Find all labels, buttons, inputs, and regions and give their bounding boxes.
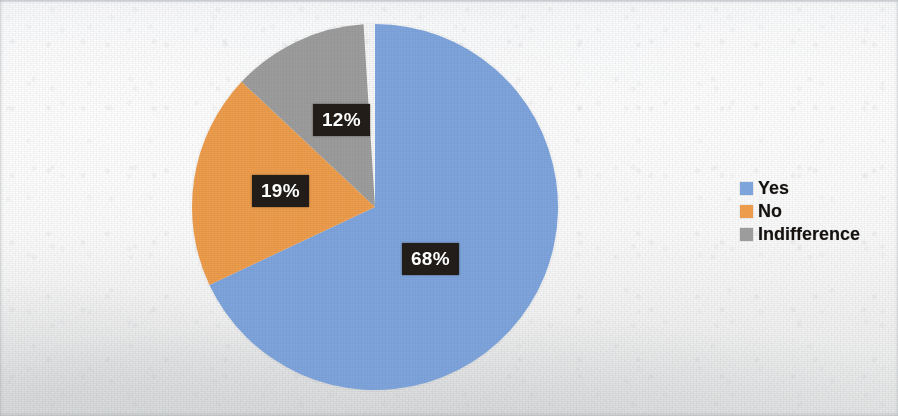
scan-edge-left bbox=[0, 0, 3, 416]
legend-label-no: No bbox=[758, 202, 782, 220]
pie-data-label-no: 19% bbox=[252, 175, 309, 207]
pie-graphic bbox=[190, 22, 560, 392]
legend-label-indifference: Indifference bbox=[758, 225, 860, 243]
pie-data-label-yes: 68% bbox=[402, 243, 459, 275]
scan-edge-bottom bbox=[0, 412, 898, 416]
legend-swatch-no-icon bbox=[740, 205, 753, 218]
legend-label-yes: Yes bbox=[758, 179, 789, 197]
pie-data-label-indifference: 12% bbox=[313, 104, 370, 136]
chart-legend: Yes No Indifference bbox=[740, 178, 860, 244]
legend-item-yes[interactable]: Yes bbox=[740, 178, 860, 198]
pie-svg bbox=[190, 22, 560, 392]
legend-swatch-yes-icon bbox=[740, 182, 753, 195]
pie-chart-figure: 68% 19% 12% Yes No Indifference bbox=[0, 0, 898, 416]
legend-swatch-indifference-icon bbox=[740, 228, 753, 241]
legend-item-indifference[interactable]: Indifference bbox=[740, 224, 860, 244]
legend-item-no[interactable]: No bbox=[740, 201, 860, 221]
scan-edge-top bbox=[0, 0, 898, 3]
